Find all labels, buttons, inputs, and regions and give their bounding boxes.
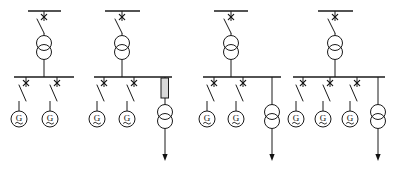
generator-label: G (293, 113, 300, 123)
switch-blade (296, 85, 303, 101)
outgoing-transformer[interactable] (265, 105, 280, 129)
disconnector-switch-feeder-1[interactable] (19, 77, 26, 101)
generator-label: G (47, 113, 54, 123)
transformer-winding-secondary (265, 114, 280, 129)
switch-blade (37, 19, 44, 33)
switch-blade (350, 85, 357, 101)
transformer-winding-primary (224, 36, 239, 51)
generator-2[interactable]: G (315, 111, 331, 127)
generator-2[interactable]: G (119, 111, 135, 127)
scheme-variant-1: GG (11, 11, 74, 127)
generator-3[interactable]: G (342, 111, 358, 127)
transformer-winding-secondary (37, 45, 52, 60)
reactor-rectangle-icon[interactable] (161, 78, 169, 98)
switch-blade (224, 19, 231, 33)
generator-label: G (233, 113, 240, 123)
generator-label: G (204, 113, 211, 123)
disconnector-switch-incoming[interactable] (224, 11, 231, 33)
outgoing-feeder (162, 129, 167, 162)
transformer-winding-primary (371, 105, 386, 120)
main-transformer[interactable] (37, 36, 52, 60)
switch-blade (328, 19, 335, 33)
switch-blade (50, 85, 57, 101)
transformer-winding-primary (37, 36, 52, 51)
switch-blade (236, 85, 243, 101)
generator-label: G (16, 113, 23, 123)
main-transformer[interactable] (115, 36, 130, 60)
disconnector-switch-feeder-1[interactable] (97, 77, 104, 101)
disconnector-switch-feeder-2[interactable] (127, 77, 134, 101)
transformer-winding-secondary (158, 114, 173, 129)
disconnector-switch-feeder-1[interactable] (207, 77, 214, 101)
disconnector-switch-feeder-1[interactable] (296, 77, 303, 101)
generator-1[interactable]: G (89, 111, 105, 127)
feeder-arrow-head-icon (375, 154, 380, 161)
outgoing-feeder (269, 129, 274, 162)
switch-blade (19, 85, 26, 101)
diagram-groups-layer: GGGGGGGGG (11, 11, 386, 161)
generator-2[interactable]: G (42, 111, 58, 127)
transformer-winding-primary (265, 105, 280, 120)
transformer-winding-primary (115, 36, 130, 51)
disconnector-switch-feeder-2[interactable] (323, 77, 330, 101)
outgoing-feeder (375, 129, 380, 162)
switch-blade (127, 85, 134, 101)
generator-2[interactable]: G (228, 111, 244, 127)
transformer-winding-secondary (328, 45, 343, 60)
transformer-winding-primary (328, 36, 343, 51)
disconnector-switch-feeder-2[interactable] (236, 77, 243, 101)
generator-label: G (94, 113, 101, 123)
feeder-arrow-head-icon (269, 154, 274, 161)
disconnector-switch-incoming[interactable] (328, 11, 335, 33)
generator-1[interactable]: G (11, 111, 27, 127)
generator-1[interactable]: G (288, 111, 304, 127)
disconnector-switch-feeder-3[interactable] (350, 77, 357, 101)
scheme-variant-3: GG (199, 11, 281, 161)
switch-blade (323, 85, 330, 101)
scheme-variant-4: GGG (288, 11, 386, 161)
switch-blade (97, 85, 104, 101)
switch-blade (115, 19, 122, 33)
transformer-winding-secondary (371, 114, 386, 129)
disconnector-switch-incoming[interactable] (115, 11, 122, 33)
disconnector-switch-feeder-2[interactable] (50, 77, 57, 101)
main-transformer[interactable] (328, 36, 343, 60)
scheme-variant-2: GG (89, 11, 173, 161)
generator-1[interactable]: G (199, 111, 215, 127)
feeder-arrow-head-icon (162, 154, 167, 161)
generator-label: G (320, 113, 327, 123)
single-line-diagram: GGGGGGGGG (0, 0, 397, 172)
outgoing-transformer[interactable] (371, 105, 386, 129)
transformer-winding-primary (158, 105, 173, 120)
transformer-winding-secondary (224, 45, 239, 60)
generator-label: G (347, 113, 354, 123)
main-transformer[interactable] (224, 36, 239, 60)
generator-label: G (124, 113, 131, 123)
disconnector-switch-incoming[interactable] (37, 11, 44, 33)
switch-blade (207, 85, 214, 101)
single-line-diagram-canvas: GGGGGGGGG (0, 0, 397, 172)
outgoing-transformer[interactable] (158, 105, 173, 129)
transformer-winding-secondary (115, 45, 130, 60)
